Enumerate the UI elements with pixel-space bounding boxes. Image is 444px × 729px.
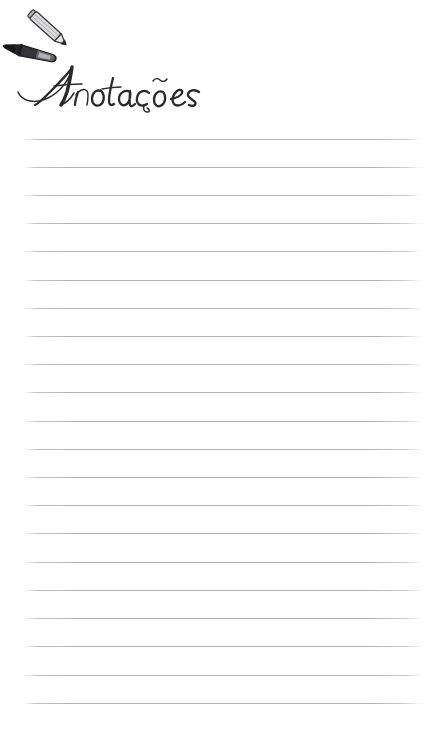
note-line[interactable] bbox=[25, 618, 420, 619]
note-line[interactable] bbox=[25, 167, 420, 168]
note-line[interactable] bbox=[25, 562, 420, 563]
note-line[interactable] bbox=[25, 336, 420, 337]
note-line[interactable] bbox=[25, 364, 420, 365]
notes-lines-area[interactable] bbox=[0, 0, 444, 729]
notes-page: Anotações bbox=[0, 0, 444, 729]
note-line[interactable] bbox=[25, 251, 420, 252]
note-line[interactable] bbox=[25, 449, 420, 450]
note-line[interactable] bbox=[25, 280, 420, 281]
note-line[interactable] bbox=[25, 139, 420, 140]
note-line[interactable] bbox=[25, 590, 420, 591]
note-line[interactable] bbox=[25, 477, 420, 478]
note-line[interactable] bbox=[25, 392, 420, 393]
note-line[interactable] bbox=[25, 195, 420, 196]
note-line[interactable] bbox=[25, 505, 420, 506]
note-line[interactable] bbox=[25, 223, 420, 224]
note-line[interactable] bbox=[25, 421, 420, 422]
note-line[interactable] bbox=[25, 675, 420, 676]
note-line[interactable] bbox=[25, 308, 420, 309]
note-line[interactable] bbox=[25, 646, 420, 647]
note-line[interactable] bbox=[25, 533, 420, 534]
note-line[interactable] bbox=[25, 703, 420, 704]
